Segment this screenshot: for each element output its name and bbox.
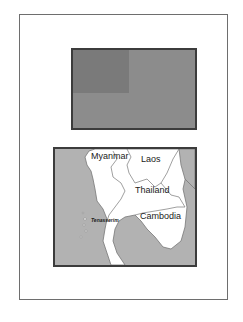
flag-image [71,48,197,130]
map-shapes [55,149,195,265]
region-map: Myanmar Laos Thailand Cambodia Tenasseri… [53,147,197,267]
flag-canton [73,50,129,93]
label-myanmar: Myanmar [91,152,129,161]
label-cambodia: Cambodia [140,212,181,221]
label-laos: Laos [141,155,161,164]
label-tenasserim: Tenasserim [91,218,119,223]
label-thailand: Thailand [135,186,170,195]
